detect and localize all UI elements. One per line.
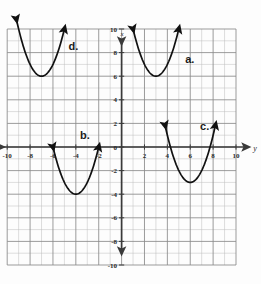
tick-label-x: -4 (73, 152, 79, 160)
curve-label-b: b. (80, 129, 90, 141)
parabola-d (16, 19, 64, 76)
curve-label-a: a. (185, 53, 194, 65)
axis-label-vertical: x (120, 30, 125, 38)
tick-label-y: 10 (110, 26, 118, 34)
axis-name-labels: yx (120, 30, 258, 153)
tick-label-y: -4 (111, 191, 117, 199)
tick-label-x: -10 (3, 152, 13, 160)
tick-label-y: -8 (111, 238, 117, 246)
tick-label-y: 6 (114, 73, 118, 81)
coordinate-plane: -10-8-6-4-2246810-10-8-6-4-20246810 yx (0, 0, 261, 284)
parabola-graph-figure: -10-8-6-4-2246810-10-8-6-4-20246810 yx a… (0, 0, 261, 284)
tick-label-x: 10 (233, 152, 241, 160)
tick-label-y: 0 (114, 144, 118, 152)
tick-label-y: 4 (114, 96, 118, 104)
curve-label-d: d. (69, 40, 79, 52)
tick-label-x: 4 (166, 152, 170, 160)
tick-label-y: -10 (108, 262, 118, 270)
tick-label-x: 6 (188, 152, 192, 160)
tick-label-y: -6 (111, 214, 117, 222)
tick-label-x: 2 (143, 152, 147, 160)
tick-label-y: -2 (111, 167, 117, 175)
axis-label-horizontal: y (252, 144, 257, 153)
tick-label-y: 8 (114, 49, 118, 57)
axis-lines (1, 41, 246, 251)
tick-label-x: 8 (211, 152, 215, 160)
curve-label-c: c. (200, 120, 209, 132)
tick-label-x: -8 (27, 152, 33, 160)
tick-label-y: 2 (114, 120, 118, 128)
